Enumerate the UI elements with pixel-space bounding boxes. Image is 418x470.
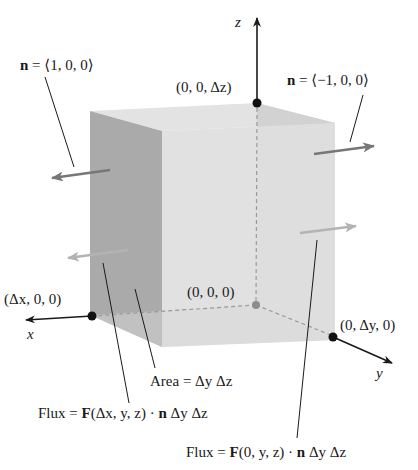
flux-back-args: (0, y, z) · [239,444,297,461]
normal-right-label: n = ⟨−1, 0, 0⟩ [287,72,369,88]
point-dz [253,99,262,108]
y-axis-label: y [374,365,383,381]
y-axis [333,337,392,363]
point-dz-label: (0, 0, Δz) [176,79,231,96]
normal-right-value: = ⟨−1, 0, 0⟩ [295,72,369,88]
flux-back-label: Flux = F(0, y, z) · n Δy Δz [186,444,346,461]
point-origin-label: (0, 0, 0) [187,284,235,301]
flux-back-suffix: Δy Δz [305,444,346,460]
point-dy-label: (0, Δy, 0) [340,317,395,334]
point-dy [329,333,338,342]
flux-cube-diagram: z x y (0, 0, Δz) (Δx, 0, 0) (0, 0, 0) (0… [0,0,418,470]
flux-front-args: (Δx, y, z) · [91,405,159,422]
flux-front-suffix: Δy Δz [167,405,208,421]
cube [90,103,335,347]
z-axis-label: z [234,14,241,30]
flux-front-F: F [81,405,90,421]
flux-back-prefix: Flux = [186,444,229,460]
x-axis [26,316,92,320]
normal-left-label: n = ⟨1, 0, 0⟩ [20,57,94,73]
flux-back-F: F [229,444,238,460]
point-origin [252,301,260,309]
point-dx [88,312,97,321]
area-label: Area = Δy Δz [150,373,233,389]
flux-front-label: Flux = F(Δx, y, z) · n Δy Δz [38,405,208,422]
leader-normal-left [45,77,74,167]
normal-left-value: = ⟨1, 0, 0⟩ [28,57,93,73]
flux-front-prefix: Flux = [38,405,81,421]
point-dx-label: (Δx, 0, 0) [4,291,61,308]
leader-normal-right [350,95,363,142]
x-axis-label: x [26,326,34,342]
